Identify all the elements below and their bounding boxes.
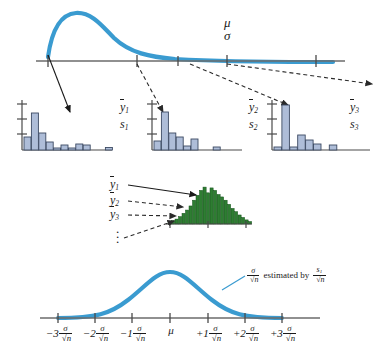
tick-denominator-n: n	[104, 333, 108, 343]
histogram-bar	[169, 133, 176, 150]
ybar-3-label: y3	[110, 208, 119, 222]
bars	[274, 105, 337, 150]
tick-denominator-n: n	[217, 333, 221, 343]
tick-fraction: σn	[283, 324, 296, 343]
histogram-bar	[154, 141, 161, 150]
tick-fraction: σn	[246, 324, 259, 343]
sampling-bar	[210, 188, 213, 224]
histogram-bar	[68, 148, 75, 150]
sampling-bar	[214, 190, 217, 224]
histogram-bar	[61, 145, 68, 150]
se-numerator: σ	[247, 267, 259, 275]
tick-fraction: σn	[96, 324, 109, 343]
tick-numerator: σ	[96, 324, 109, 333]
tick-denominator: n	[283, 333, 296, 343]
annotation-leader-line	[222, 276, 245, 290]
tick-sign: +1	[196, 327, 209, 339]
tick-denominator-n: n	[141, 333, 145, 343]
histogram-bar	[306, 140, 314, 150]
tick-numerator: σ	[246, 324, 259, 333]
radical-icon	[210, 334, 217, 343]
tick-sign: −3	[46, 327, 59, 339]
sample-3-mean-symbol: y	[350, 101, 355, 113]
arrow-to-sample-2	[137, 64, 163, 112]
tick-fraction: σn	[59, 324, 72, 343]
population-distribution	[36, 13, 345, 67]
histogram-bar	[176, 137, 183, 150]
tick-sign: +3	[270, 327, 283, 339]
histogram-bar	[161, 112, 168, 150]
sampling-bar	[235, 212, 238, 224]
histogram-bar	[46, 142, 53, 150]
histogram-bar	[83, 145, 90, 150]
se-fraction: σ n	[247, 267, 259, 284]
arrow-to-sample-3	[190, 64, 288, 105]
tick-fraction: σn	[209, 324, 222, 343]
population-parameters: μ σ	[224, 16, 231, 42]
sampling-distribution	[166, 187, 252, 228]
sample-1-sd-subscript: 1	[125, 123, 129, 132]
sample-3-stats: y3 s3	[350, 101, 359, 131]
tick-numerator: σ	[59, 324, 72, 333]
est-fraction: s1 n	[313, 266, 325, 284]
sampling-bar	[224, 200, 227, 224]
histogram-bar	[184, 146, 191, 150]
tick-fraction: σn	[133, 324, 146, 343]
radical-icon	[134, 334, 141, 343]
axis-tick-label-0: −3σn	[44, 324, 74, 343]
sample-2-sd-subscript: 2	[254, 123, 258, 132]
radical-icon	[284, 334, 291, 343]
ybar-1-base: y	[110, 178, 115, 190]
sampling-bar	[238, 215, 241, 224]
histogram-bar	[191, 139, 198, 150]
sigma-symbol: σ	[224, 29, 231, 42]
sample-2-mean-symbol: y	[249, 101, 254, 113]
arrow-ybar-3	[128, 215, 176, 216]
tick-sign: −1	[120, 327, 133, 339]
tick-numerator: σ	[283, 324, 296, 333]
sampling-bar	[231, 208, 234, 224]
est-numerator: s1	[313, 266, 325, 275]
tick-denominator: n	[246, 333, 259, 343]
histogram-bar	[290, 147, 298, 150]
bars	[24, 113, 112, 150]
sample-mean-arrows	[124, 185, 196, 238]
sampling-distribution-figure	[0, 0, 388, 347]
ybar-3-base: y	[110, 208, 115, 220]
axis-tick-label-6: +3σn	[268, 324, 298, 343]
bars	[154, 112, 220, 150]
sampling-bar	[228, 204, 231, 224]
sampling-bar	[175, 219, 178, 224]
ybar-2-sub: 2	[115, 199, 119, 208]
tick-denominator: n	[96, 333, 109, 343]
tick-numerator: σ	[209, 324, 222, 333]
radical-icon	[97, 334, 104, 343]
tick-denominator: n	[59, 333, 72, 343]
sampling-bar	[186, 210, 189, 224]
tick-denominator-n: n	[291, 333, 295, 343]
sample-histogram-1	[17, 100, 112, 150]
est-numerator-sub: 1	[320, 269, 322, 274]
histogram-bar	[274, 147, 282, 150]
sampling-bar	[179, 217, 182, 224]
histogram-bar	[54, 148, 61, 150]
arrow-to-more-samples	[227, 64, 372, 84]
histogram-bar	[39, 133, 46, 150]
ybar-1-sub: 1	[115, 183, 119, 192]
est-denominator-n: n	[321, 275, 325, 284]
sampling-bar	[221, 197, 224, 224]
sampling-bar	[200, 190, 203, 224]
sample-1-mean-subscript: 1	[125, 106, 129, 115]
tick-sign: −2	[83, 327, 96, 339]
tick-denominator: n	[133, 333, 146, 343]
radical-icon	[60, 334, 67, 343]
histogram-bar	[105, 148, 112, 151]
sample-3-mean-subscript: 3	[355, 106, 359, 115]
sample-2-mean-subscript: 2	[254, 106, 258, 115]
sample-1-stats: y1 s1	[120, 101, 129, 131]
sampling-bar	[189, 206, 192, 224]
histogram-bar	[213, 147, 220, 150]
histogram-bar	[76, 144, 83, 150]
histogram-bar	[314, 144, 322, 150]
arrow-ybar-2	[128, 201, 183, 207]
